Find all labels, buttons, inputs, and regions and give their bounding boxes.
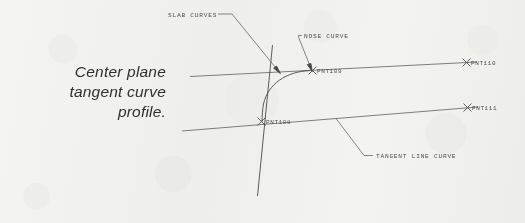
nose-curve-label: NOSE CURVE bbox=[304, 33, 349, 40]
tangent-line-curve-label: TANGENT LINE CURVE bbox=[376, 153, 456, 160]
leader-lines bbox=[218, 14, 373, 156]
point-label-pnt108: PNT108 bbox=[266, 119, 291, 126]
technical-drawing: SLAB CURVES NOSE CURVE TANGENT LINE CURV… bbox=[0, 0, 525, 223]
point-label-pnt110: PNT110 bbox=[471, 60, 496, 67]
slab-curves-label: SLAB CURVES bbox=[168, 12, 217, 19]
lower-construction-line bbox=[182, 107, 478, 131]
point-label-pnt109: PNT109 bbox=[317, 68, 342, 75]
drawing-page: Center plane tangent curve profile. bbox=[0, 0, 525, 223]
tangent-line-curve-leader bbox=[336, 119, 373, 156]
point-markers bbox=[258, 59, 472, 126]
point-label-pnt111: PNT111 bbox=[472, 105, 497, 112]
